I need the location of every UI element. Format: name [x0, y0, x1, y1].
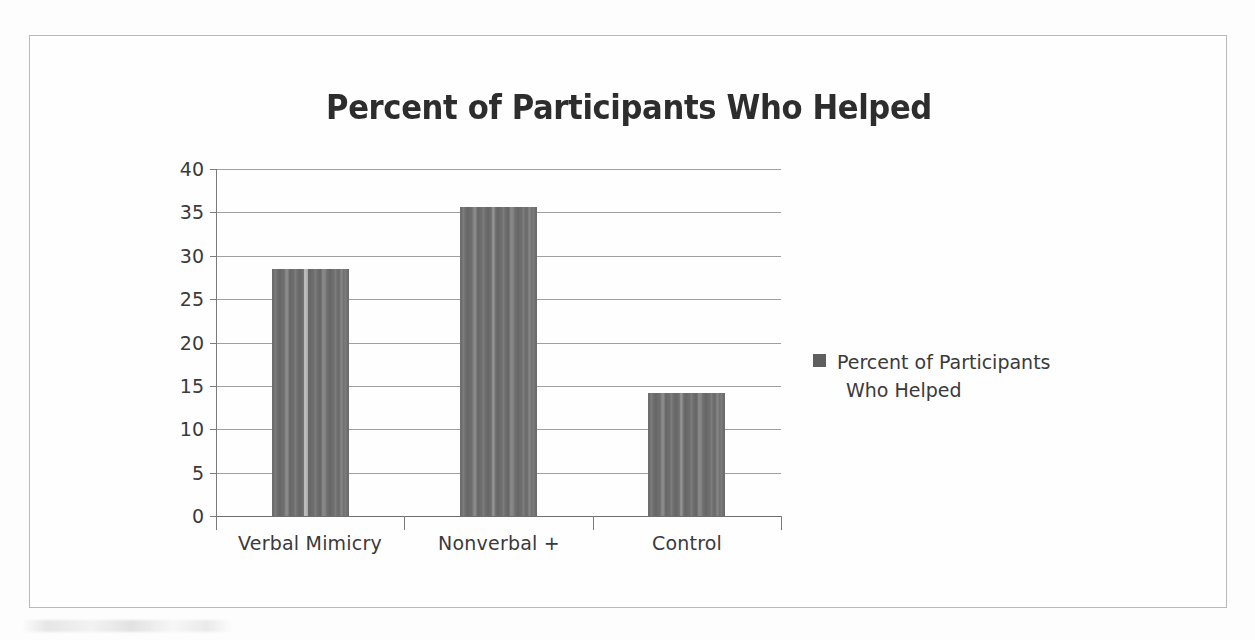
y-axis-label-25: 25	[180, 288, 204, 310]
y-axis-tick-5	[210, 473, 217, 474]
y-axis-tick-40	[210, 169, 217, 170]
scan-smudge-artifact	[22, 620, 232, 632]
x-axis-tick-2	[593, 516, 594, 530]
scanned-page-background: Percent of Participants Who Helped 40353…	[0, 0, 1255, 640]
legend-label-line-2: Who Helped	[837, 377, 1051, 405]
y-axis-label-20: 20	[180, 332, 204, 354]
x-axis-label-verbal-mimicry: Verbal Mimicry	[238, 532, 382, 554]
gridline-40	[216, 169, 781, 170]
chart-title: Percent of Participants Who Helped	[72, 88, 1186, 127]
y-axis-label-35: 35	[180, 201, 204, 223]
gridline-0	[216, 516, 781, 517]
y-axis-tick-25	[210, 299, 217, 300]
legend-color-swatch	[813, 354, 826, 367]
y-axis-label-0: 0	[192, 505, 204, 527]
x-axis-tick-1	[404, 516, 405, 530]
y-axis-label-40: 40	[180, 158, 204, 180]
x-axis-label-control: Control	[652, 532, 722, 554]
y-axis-tick-35	[210, 212, 217, 213]
y-axis-tick-20	[210, 343, 217, 344]
y-axis-label-5: 5	[192, 462, 204, 484]
plot-area: 4035302520151050 Verbal MimicryNonverbal…	[216, 169, 781, 516]
bar-verbal-mimicry	[272, 269, 349, 516]
chart-legend: Percent of Participants Who Helped	[813, 349, 1113, 404]
legend-label: Percent of Participants Who Helped	[837, 349, 1051, 404]
y-axis-label-30: 30	[180, 245, 204, 267]
chart-frame: Percent of Participants Who Helped 40353…	[29, 35, 1227, 608]
x-axis-tick-3	[781, 516, 782, 530]
bar-nonverbal	[460, 207, 537, 516]
y-axis-label-15: 15	[180, 375, 204, 397]
y-axis-tick-30	[210, 256, 217, 257]
y-axis-tick-10	[210, 429, 217, 430]
x-axis-label-nonverbal: Nonverbal +	[438, 532, 560, 554]
bar-control	[648, 393, 725, 516]
legend-label-line-1: Percent of Participants	[837, 349, 1051, 377]
y-axis-label-10: 10	[180, 418, 204, 440]
x-axis-tick-0	[216, 516, 217, 530]
y-axis-tick-15	[210, 386, 217, 387]
